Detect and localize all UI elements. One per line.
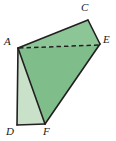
geometry-figure: A C D E F <box>0 0 116 141</box>
edge-DA <box>17 48 18 125</box>
vertex-label-a: A <box>4 36 11 47</box>
figure-canvas <box>0 0 116 141</box>
edge-FD <box>17 124 45 125</box>
vertex-label-d: D <box>6 126 14 137</box>
vertex-label-c: C <box>81 2 88 13</box>
vertex-label-e: E <box>103 34 110 45</box>
vertex-label-f: F <box>43 126 50 137</box>
